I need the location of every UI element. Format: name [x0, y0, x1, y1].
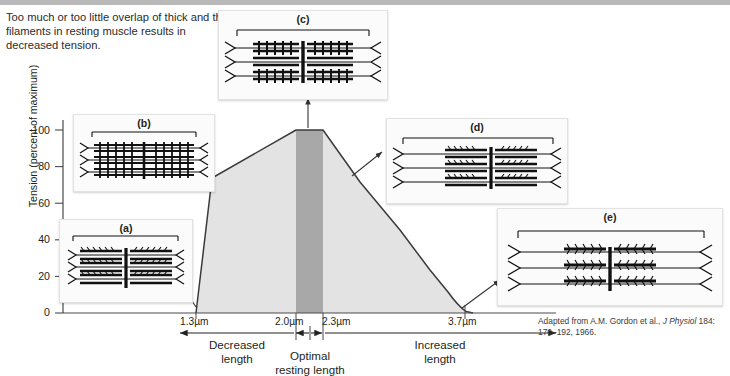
region-increased-line1: Increased: [415, 338, 466, 351]
sarcomere-panel-e: (e): [497, 208, 723, 306]
region-optimal-line1: Optimal: [290, 349, 330, 362]
credit-line1-post: 184:: [696, 316, 715, 326]
sarcomere-panel-c: (c): [218, 10, 388, 100]
credit-line2: 170–192, 1966.: [538, 327, 596, 337]
optimal-band: [296, 130, 323, 313]
x-tick-label-2-0: 2.0µm: [275, 316, 304, 327]
sarcomere-panel-a: (a): [59, 219, 193, 303]
panel-d-diagram: [387, 119, 567, 203]
panel-b-diagram: [74, 115, 214, 191]
credit-journal: J Physiol: [663, 316, 697, 326]
y-tick-label-60: 60: [24, 197, 50, 209]
x-tick-label-3-7: 3.7µm: [448, 316, 477, 327]
region-optimal-line2: resting length: [275, 363, 345, 376]
y-tick-label-0: 0: [24, 306, 50, 318]
y-tick-label-100: 100: [24, 124, 50, 136]
panel-c-diagram: [219, 11, 387, 99]
panel-e-diagram: [498, 209, 722, 305]
credit-line1-pre: Adapted from A.M. Gordon et al.,: [538, 316, 663, 326]
panel-a-diagram: [60, 220, 192, 302]
y-tick-label-80: 80: [24, 160, 50, 172]
region-label-increased: Increased length: [378, 338, 502, 365]
sarcomere-panel-b: (b): [73, 114, 215, 192]
region-increased-line2: length: [424, 352, 456, 365]
leader-arrow-d: [352, 152, 382, 176]
x-tick-label-2-3: 2.3µm: [322, 316, 351, 327]
y-tick-label-20: 20: [24, 270, 50, 282]
x-tick-label-1-3: 1.3µm: [180, 316, 209, 327]
leader-arrow-e: [462, 280, 500, 308]
y-tick-label-40: 40: [24, 233, 50, 245]
source-credit: Adapted from A.M. Gordon et al., J Physi…: [538, 316, 723, 337]
sarcomere-panel-d: (d): [386, 118, 568, 204]
region-label-optimal: Optimal resting length: [248, 349, 372, 376]
